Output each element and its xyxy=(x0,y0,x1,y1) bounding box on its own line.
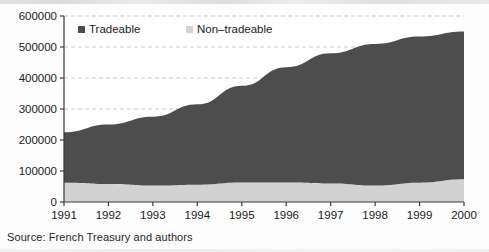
y-tick-label: 400000 xyxy=(19,72,57,84)
y-tick-label: 600000 xyxy=(19,10,57,22)
legend-swatch-1 xyxy=(78,26,85,33)
x-tick-label: 1993 xyxy=(140,209,166,221)
x-tick-label: 1994 xyxy=(185,209,211,221)
legend-label-1: Tradeable xyxy=(89,23,140,35)
x-axis-ticks: 1991199219931994199519961997199819992000 xyxy=(51,202,477,221)
y-tick-label: 200000 xyxy=(19,134,57,146)
area-chart: 0100000200000300000400000500000600000 19… xyxy=(0,0,489,252)
x-tick-label: 1996 xyxy=(273,209,299,221)
x-tick-label: 1991 xyxy=(51,209,77,221)
x-tick-label: 1997 xyxy=(318,209,344,221)
legend-label-2: Non–tradeable xyxy=(197,23,272,35)
x-tick-label: 1998 xyxy=(362,209,388,221)
y-tick-label: 0 xyxy=(51,196,57,208)
x-tick-label: 1992 xyxy=(96,209,122,221)
y-tick-label: 500000 xyxy=(19,41,57,53)
y-axis-ticks: 0100000200000300000400000500000600000 xyxy=(19,10,64,208)
x-tick-label: 1995 xyxy=(229,209,255,221)
x-tick-label: 2000 xyxy=(451,209,477,221)
y-tick-label: 300000 xyxy=(19,103,57,115)
source-note: Source: French Treasury and authors xyxy=(7,231,193,243)
x-tick-label: 1999 xyxy=(407,209,433,221)
legend-swatch-2 xyxy=(186,26,193,33)
y-tick-label: 100000 xyxy=(19,165,57,177)
figure-container: 0100000200000300000400000500000600000 19… xyxy=(0,0,489,252)
